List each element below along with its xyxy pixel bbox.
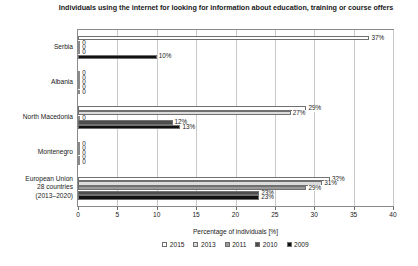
x-axis: 0510152025303540 [77,207,394,221]
legend-swatch-icon [162,242,167,247]
y-axis-category-label-line: 28 countries [4,183,73,191]
bar-group: 00000 [78,136,393,171]
legend-swatch-icon [225,242,230,247]
bar-value-label: 0 [82,159,87,165]
x-axis-tick [354,207,355,210]
bar [78,160,80,164]
legend-label: 2011 [232,241,246,248]
gridline [393,30,394,206]
bar-value-label: 10% [158,53,172,59]
y-axis-category-label-line: Montenegro [4,148,73,156]
legend-item-2009[interactable]: 2009 [287,241,309,248]
legend-item-2015[interactable]: 2015 [162,241,184,248]
y-axis-category-labels: SerbiaAlbaniaNorth MacedoniaMontenegroEu… [0,29,73,207]
bar-group: 32%31%29%23%23% [78,171,393,206]
bar-value-label: 29% [308,185,322,191]
x-axis-tick-label: 20 [232,211,239,219]
legend-item-2010[interactable]: 2010 [255,241,277,248]
legend-label: 2010 [263,241,278,248]
chart-container: Individuals using the internet for looki… [0,0,418,266]
legend-swatch-icon [255,242,260,247]
legend-item-2011[interactable]: 2011 [225,241,247,248]
bar-group: 00000 [78,65,393,100]
x-axis-tick [157,207,158,210]
bar-value-label: 31% [324,180,338,186]
bar [78,195,259,199]
legend-label: 2015 [170,241,185,248]
plot-area: 37%00010%0000029%27%012%13%0000032%31%29… [77,29,394,207]
y-axis-category-label: Montenegro [4,148,73,156]
x-axis-tick-label: 15 [192,211,199,219]
x-axis-tick [275,207,276,210]
x-axis-tick-label: 30 [311,211,318,219]
x-axis-tick [196,207,197,210]
y-axis-category-label: Albania [4,78,73,86]
bar-value-label: 29% [308,105,322,111]
bar-value-label: 13% [182,124,196,130]
x-axis-tick [78,207,79,210]
legend-swatch-icon [193,242,198,247]
x-axis-tick [393,207,394,210]
x-axis-tick-label: 10 [153,211,160,219]
y-axis-category-label-line: (2013–2020) [4,192,73,200]
bar-value-label: 37% [371,35,385,41]
x-axis-title: Percentage of individuals [%] [77,228,394,236]
legend-swatch-icon [287,242,292,247]
y-axis-category-label-line: Serbia [4,43,73,51]
y-axis-category-label: European Union28 countries(2013–2020) [4,175,73,200]
x-axis-tick [314,207,315,210]
bar-group: 29%27%012%13% [78,100,393,135]
y-axis-category-label-line: North Macedonia [4,113,73,121]
y-axis-category-label-line: European Union [4,175,73,183]
bar-group: 37%00010% [78,30,393,65]
x-axis-tick [117,207,118,210]
bar-value-label: 27% [292,110,306,116]
x-axis-tick-label: 35 [350,211,357,219]
x-axis-tick-label: 5 [116,211,120,219]
x-axis-tick [236,207,237,210]
bar [78,55,157,59]
y-axis-category-label: North Macedonia [4,113,73,121]
x-axis-tick-label: 40 [389,211,396,219]
bar-value-label: 0 [82,89,87,95]
bar-value-label: 23% [261,194,275,200]
bar [78,90,80,94]
legend-label: 2013 [201,241,216,248]
chart-legend: 20152013201120102009 [77,241,394,248]
y-axis-category-label-line: Albania [4,78,73,86]
bar [78,111,291,115]
bar [78,36,369,40]
legend-item-2013[interactable]: 2013 [193,241,215,248]
chart-title: Individuals using the internet for looki… [56,3,396,13]
x-axis-tick-label: 25 [271,211,278,219]
x-axis-tick-label: 0 [76,211,80,219]
legend-label: 2009 [294,241,309,248]
bar [78,125,180,129]
y-axis-category-label: Serbia [4,43,73,51]
